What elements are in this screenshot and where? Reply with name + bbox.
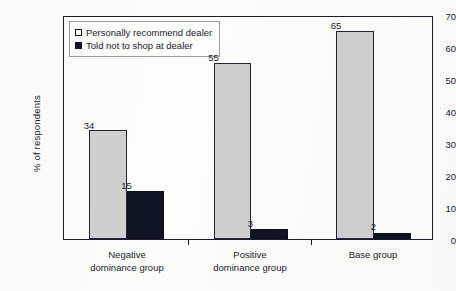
y-tick-label: 10 bbox=[434, 203, 456, 214]
data-label-toldnot-negative: 15 bbox=[108, 180, 145, 191]
legend-item-toldnot: Told not to shop at dealer bbox=[75, 39, 212, 52]
open-square-marker-icon bbox=[75, 29, 82, 36]
y-axis-title: % of respondents bbox=[31, 54, 42, 214]
bar-toldnot-negative bbox=[127, 191, 164, 239]
data-label-recommend-positive: 55 bbox=[195, 52, 232, 63]
bar-recommend-base bbox=[336, 31, 374, 239]
y-tick-label: 40 bbox=[434, 107, 456, 118]
x-category-line: Base group bbox=[312, 249, 434, 262]
x-category-line: Positive bbox=[189, 249, 311, 262]
data-label-toldnot-base: 2 bbox=[355, 221, 392, 232]
x-tick-mark bbox=[188, 240, 189, 245]
x-category-line: dominance group bbox=[66, 262, 188, 275]
y-tick-label: 70 bbox=[434, 11, 456, 22]
y-tick-label: 30 bbox=[434, 139, 456, 150]
x-tick-mark bbox=[311, 240, 312, 245]
plot-area: Personally recommend dealer Told not to … bbox=[63, 16, 433, 240]
data-label-toldnot-positive: 3 bbox=[232, 218, 269, 229]
y-tick-label: 50 bbox=[434, 75, 456, 86]
y-tick-label: 20 bbox=[434, 171, 456, 182]
legend-label: Told not to shop at dealer bbox=[86, 40, 193, 51]
bar-chart: % of respondents 70 60 50 40 30 20 10 0 bbox=[0, 0, 456, 291]
bar-toldnot-base bbox=[374, 233, 411, 239]
filled-square-marker-icon bbox=[75, 42, 82, 49]
y-tick-label: 0 bbox=[434, 235, 456, 246]
legend-item-recommend: Personally recommend dealer bbox=[75, 26, 212, 39]
x-category-label-negative: Negative dominance group bbox=[66, 249, 188, 274]
x-category-line: Negative bbox=[66, 249, 188, 262]
data-label-recommend-base: 65 bbox=[317, 20, 355, 31]
x-category-label-positive: Positive dominance group bbox=[189, 249, 311, 274]
bar-toldnot-positive bbox=[251, 229, 288, 239]
bar-recommend-positive bbox=[214, 63, 251, 239]
data-label-recommend-negative: 34 bbox=[70, 120, 108, 131]
x-category-label-base: Base group bbox=[312, 249, 434, 262]
y-tick-label: 60 bbox=[434, 43, 456, 54]
legend-label: Personally recommend dealer bbox=[86, 27, 212, 38]
x-category-line: dominance group bbox=[189, 262, 311, 275]
